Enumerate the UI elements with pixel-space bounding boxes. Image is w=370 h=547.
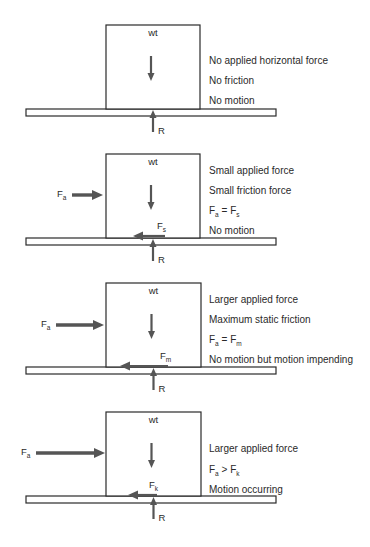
panel-4: wtRFaFkLarger applied forceFa > FkMotion… [21, 412, 298, 523]
description-line: Fa = Fs [209, 205, 240, 218]
weight-label: wt [147, 156, 158, 167]
weight-label: wt [147, 27, 158, 38]
applied-force-label: Fa [21, 446, 31, 459]
description-line: Maximum static friction [209, 314, 311, 325]
weight-label: wt [148, 414, 159, 425]
description-line: No applied horizontal force [209, 55, 328, 66]
panel-3: wtRFaFmLarger applied forceMaximum stati… [26, 283, 353, 394]
applied-force-label: Fa [57, 188, 67, 201]
weight-label: wt [148, 285, 159, 296]
description-line: No motion [209, 225, 255, 236]
description-line: Fa = Fm [209, 334, 242, 347]
applied-force-arrow-head [92, 190, 103, 200]
description-line: Larger applied force [209, 443, 298, 454]
reaction-label: R [159, 512, 166, 523]
applied-force-arrow-head [94, 448, 105, 458]
reaction-label: R [159, 383, 166, 394]
description-line: Larger applied force [209, 294, 298, 305]
reaction-label: R [158, 125, 165, 136]
description-line: No friction [209, 75, 254, 86]
description-line: Small friction force [209, 185, 292, 196]
description-line: Motion occurring [209, 484, 283, 495]
description-line: Fa > Fk [209, 464, 240, 477]
floor-surface [26, 496, 276, 503]
reaction-label: R [158, 254, 165, 265]
applied-force-label: Fa [41, 318, 51, 331]
description-line: Small applied force [209, 165, 294, 176]
description-line: No motion [209, 95, 255, 106]
panel-1: wtRNo applied horizontal forceNo frictio… [26, 25, 328, 136]
panel-2: wtRFaFsSmall applied forceSmall friction… [26, 154, 294, 265]
floor-surface [26, 367, 276, 374]
friction-diagram: wtRNo applied horizontal forceNo frictio… [0, 0, 370, 547]
applied-force-arrow-head [93, 320, 104, 330]
description-line: No motion but motion impending [209, 354, 353, 365]
